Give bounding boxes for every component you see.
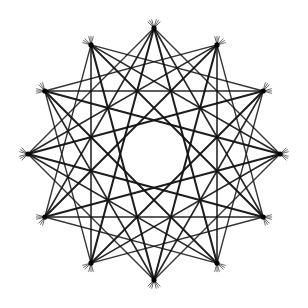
- star-vertex: [151, 277, 156, 282]
- star-vertex: [261, 88, 266, 93]
- star-vertex: [42, 88, 47, 93]
- star-edge-step-4: [28, 45, 217, 154]
- star-edge-step-4: [45, 91, 154, 280]
- star-edge-step-4: [154, 91, 263, 280]
- star-vertex: [214, 42, 219, 47]
- star-edge-step-4: [91, 154, 280, 263]
- star-vertex: [214, 261, 219, 266]
- star-vertices: [25, 25, 282, 282]
- star-vertex: [261, 214, 266, 219]
- star-edge-step-4: [91, 45, 280, 154]
- star-edges: [28, 28, 280, 280]
- vertex-ticks: [19, 19, 288, 288]
- star-edge-step-4: [154, 28, 263, 217]
- star-vertex: [88, 42, 93, 47]
- star-diagram: [0, 0, 308, 308]
- star-vertex: [25, 151, 30, 156]
- star-edge-step-4: [28, 154, 217, 263]
- star-edge-step-4: [45, 28, 154, 217]
- star-vertex: [151, 25, 156, 30]
- star-vertex: [277, 151, 282, 156]
- star-vertex: [88, 261, 93, 266]
- star-vertex: [42, 214, 47, 219]
